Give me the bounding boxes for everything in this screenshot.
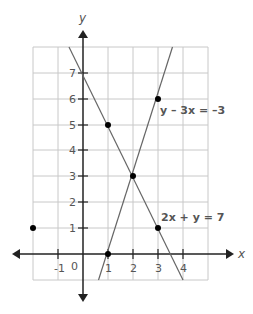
coordinate-plane: -1 0 1 2 3 4 7 6 5 4 3 2 1 y x y – 3x = … — [0, 0, 253, 314]
y-tick-label: 4 — [69, 144, 76, 157]
x-tick-label: 1 — [105, 262, 112, 275]
y-tick-label: 2 — [69, 196, 76, 209]
grid — [33, 47, 208, 280]
y-axis-label: y — [78, 11, 87, 25]
y-tick-label: 1 — [69, 222, 76, 235]
origin-label: 0 — [71, 260, 78, 273]
x-tick-label: -1 — [54, 262, 65, 275]
equation-label-2: 2x + y = 7 — [161, 211, 224, 224]
y-axis — [78, 30, 88, 302]
x-axis-label: x — [237, 247, 246, 261]
point — [30, 225, 36, 231]
x-axis — [12, 249, 234, 259]
arrow-left-icon — [12, 249, 20, 259]
y-tick-label: 7 — [69, 67, 76, 80]
point — [155, 225, 161, 231]
equation-label-1: y – 3x = –3 — [160, 104, 225, 117]
point — [155, 96, 161, 102]
y-tick-label: 5 — [69, 119, 76, 132]
x-tick-label: 4 — [180, 262, 187, 275]
line-y-minus-3x-eq-neg3 — [99, 47, 173, 280]
point — [130, 173, 136, 179]
arrow-right-icon — [226, 249, 234, 259]
arrow-down-icon — [78, 294, 88, 302]
x-tick-label: 3 — [155, 262, 162, 275]
y-tick-label: 3 — [69, 170, 76, 183]
point — [105, 122, 111, 128]
x-tick-labels: -1 0 1 2 3 4 — [54, 260, 187, 275]
y-tick-label: 6 — [69, 93, 76, 106]
y-tick-labels: 7 6 5 4 3 2 1 — [69, 67, 76, 235]
point — [105, 251, 111, 257]
x-tick-label: 2 — [130, 262, 137, 275]
axis-ticks — [58, 73, 183, 259]
line-2x-plus-y-eq-7 — [69, 47, 183, 280]
arrow-up-icon — [78, 30, 88, 38]
